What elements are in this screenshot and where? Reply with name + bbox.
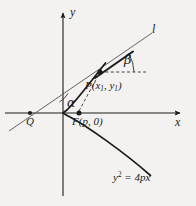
equation-equals: = (122, 171, 135, 183)
line-l-label: l (152, 23, 155, 35)
equation-rhs: 4px (134, 171, 150, 183)
angle-alpha-label: α (67, 97, 75, 109)
point-p-label: P(x1, y1) (85, 80, 122, 93)
figure-canvas (0, 0, 196, 206)
point-p-close-paren: ) (118, 79, 122, 91)
point-q-label: Q (26, 116, 34, 127)
x-axis-label: x (175, 116, 180, 128)
point-p-dot (98, 70, 103, 75)
point-p-name: P (85, 79, 92, 91)
parabola-figure: y x l β α P(x1, y1) Q F(p, 0) y2 = 4px (0, 0, 196, 206)
parabola-equation-label: y2 = 4px (113, 172, 150, 183)
y-axis-label: y (70, 6, 75, 18)
point-f-label: F(p, 0) (72, 116, 103, 127)
point-f-close-paren: ) (99, 115, 103, 127)
angle-beta-label: β (124, 53, 132, 66)
point-f-name: F (72, 115, 79, 127)
